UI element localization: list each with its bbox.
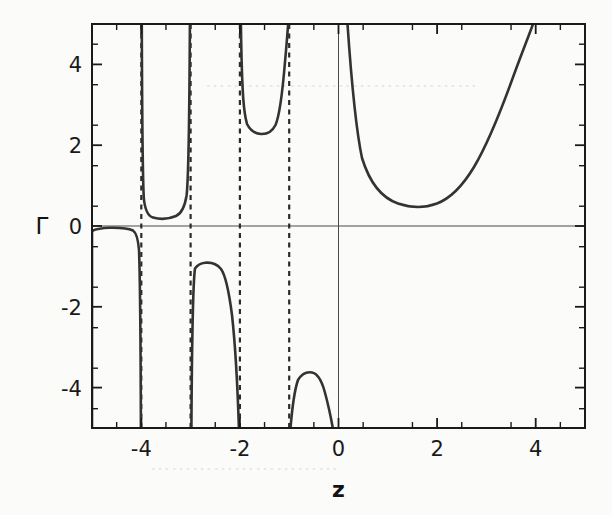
x-tick-label-0: 0 — [332, 437, 345, 461]
y-tick-label-4: 4 — [69, 53, 82, 77]
x-tick-label-4: 4 — [529, 437, 542, 461]
y-tick-label-0: 0 — [69, 215, 82, 239]
x-tick-label-minus-4: -4 — [131, 437, 152, 461]
y-axis-title: Γ — [36, 213, 49, 239]
x-tick-label-2: 2 — [430, 437, 443, 461]
svg-text:⋯⋯⋯⋯⋯⋯⋯⋯⋯⋯⋯⋯⋯: ⋯⋯⋯⋯⋯⋯⋯⋯⋯⋯⋯⋯⋯ — [205, 73, 478, 97]
x-tick-label-minus-2: -2 — [229, 437, 250, 461]
y-tick-label-minus-2: -2 — [61, 296, 82, 320]
y-tick-label-minus-4: -4 — [61, 377, 82, 401]
x-axis-title: z — [332, 477, 345, 502]
gamma-function-plot: ⋯⋯⋯⋯⋯⋯⋯⋯⋯⋯⋯⋯⋯ ⋯⋯⋯⋯⋯⋯⋯⋯⋯ — [0, 0, 612, 515]
y-tick-label-2: 2 — [69, 134, 82, 158]
